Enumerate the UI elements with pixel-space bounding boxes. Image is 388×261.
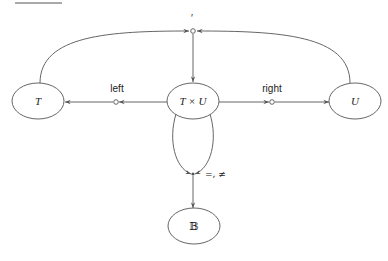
node-u: U <box>329 83 381 119</box>
node-u-label: U <box>351 95 360 107</box>
node-txu-label: T × U <box>180 95 208 107</box>
node-txu: T × U <box>167 83 219 119</box>
junction-circle-icon <box>114 100 119 105</box>
edge-txu-to-eq-2 <box>195 114 213 174</box>
op-pair: ′ <box>191 13 196 33</box>
op-pair-label: ′ <box>191 13 193 24</box>
node-t-label: T <box>35 95 42 107</box>
junction-dot-icon <box>191 172 194 175</box>
node-b-label: 𝔹 <box>189 220 198 233</box>
op-left: left <box>110 83 124 104</box>
op-eq: =, ≠ <box>191 169 225 179</box>
node-t: T <box>12 83 64 119</box>
junction-circle-icon <box>270 100 275 105</box>
edge-txu-to-eq-1 <box>173 114 191 174</box>
edge-t-to-pair <box>40 31 189 83</box>
edge-u-to-pair <box>197 31 350 83</box>
op-left-label: left <box>110 83 124 94</box>
op-eq-label: =, ≠ <box>205 169 226 179</box>
diagram-canvas: T T × U U 𝔹 ′ left right =, ≠ <box>0 0 388 261</box>
op-right-label: right <box>262 83 282 94</box>
junction-circle-icon <box>191 29 196 34</box>
node-b: 𝔹 <box>168 208 220 244</box>
op-right: right <box>262 83 282 104</box>
